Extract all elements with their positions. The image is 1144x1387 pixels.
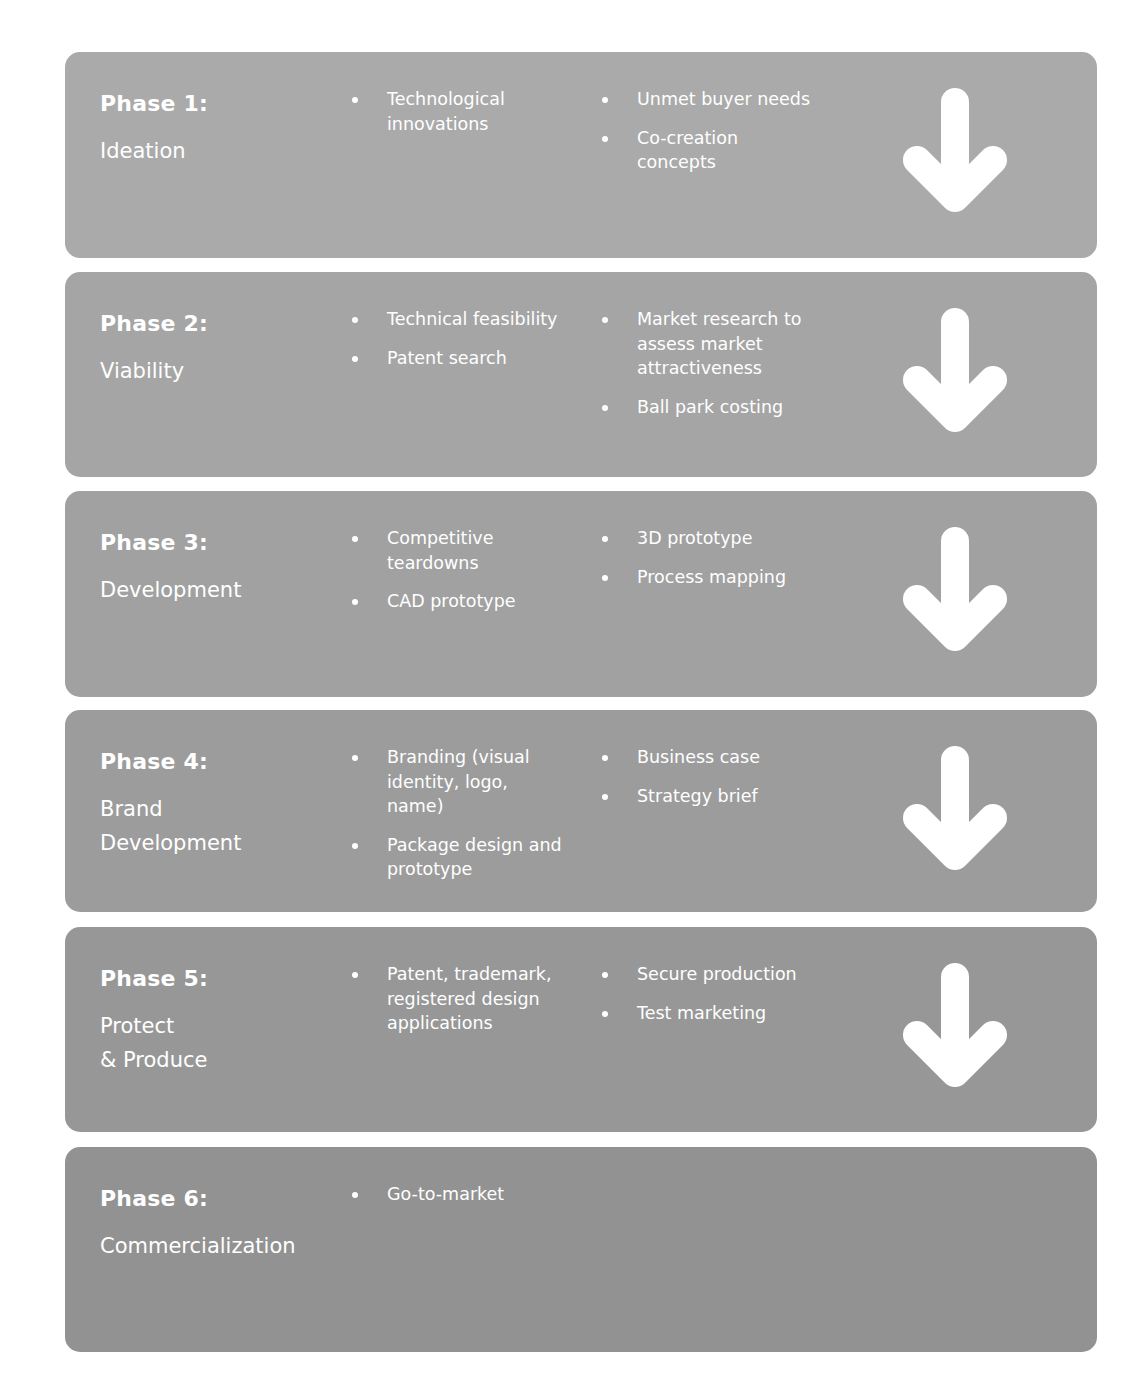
activity-item: 3D prototype: [600, 526, 817, 551]
activity-label: Test marketing: [637, 1003, 766, 1023]
activity-item: Competitive teardowns: [350, 526, 567, 575]
arrow-down-icon: [901, 525, 1009, 655]
activity-item: Technical feasibility: [350, 307, 567, 332]
activity-label: Co-creation concepts: [637, 128, 738, 173]
activity-label: Branding (visual identity, logo, name): [387, 747, 530, 816]
activity-item: Test marketing: [600, 1001, 817, 1026]
activity-label: Secure production: [637, 964, 797, 984]
bullet-icon: [352, 972, 358, 978]
phase-box-1: Phase 1: Ideation Technological innovati…: [65, 52, 1097, 258]
activity-item: Package design and prototype: [350, 833, 567, 882]
activity-label: Business case: [637, 747, 760, 767]
phase-activities-column-2: Unmet buyer needsCo-creation concepts: [600, 87, 850, 189]
bullet-icon: [602, 575, 608, 581]
activity-label: Technological innovations: [387, 89, 505, 134]
phase-activities-column-1: Competitive teardownsCAD prototype: [350, 526, 600, 628]
bullet-icon: [602, 972, 608, 978]
activity-label: Market research to assess market attract…: [637, 309, 802, 378]
phase-title: Phase 3:: [100, 529, 208, 557]
activity-item: Ball park costing: [600, 395, 817, 420]
bullet-icon: [352, 536, 358, 542]
phase-box-5: Phase 5: Protect & Produce Patent, trade…: [65, 927, 1097, 1132]
activity-label: Unmet buyer needs: [637, 89, 810, 109]
bullet-icon: [352, 317, 358, 323]
activity-item: CAD prototype: [350, 589, 567, 614]
phase-activities-column-1: Technological innovations: [350, 87, 600, 150]
phase-title: Phase 4:: [100, 748, 208, 776]
phase-box-4: Phase 4: Brand Development Branding (vis…: [65, 710, 1097, 912]
bullet-icon: [602, 97, 608, 103]
phase-box-3: Phase 3: Development Competitive teardow…: [65, 491, 1097, 697]
bullet-icon: [352, 97, 358, 103]
arrow-down-icon: [901, 961, 1009, 1091]
phase-activities-column-2: Secure productionTest marketing: [600, 962, 850, 1039]
arrow-down-icon: [901, 306, 1009, 436]
activity-item: Market research to assess market attract…: [600, 307, 817, 381]
phase-activities-column-1: Go-to-market: [350, 1182, 600, 1221]
phase-subtitle: Protect & Produce: [100, 1009, 340, 1077]
bullet-icon: [602, 405, 608, 411]
bullet-icon: [352, 599, 358, 605]
phase-box-2: Phase 2: Viability Technical feasibility…: [65, 272, 1097, 477]
activity-label: Technical feasibility: [387, 309, 557, 329]
arrow-down-icon: [901, 744, 1009, 874]
activity-label: Package design and prototype: [387, 835, 562, 880]
activity-label: Patent search: [387, 348, 507, 368]
phase-activities-column-1: Branding (visual identity, logo, name)Pa…: [350, 745, 600, 896]
phase-activities-column-2: Market research to assess market attract…: [600, 307, 850, 433]
phase-title: Phase 2:: [100, 310, 208, 338]
activity-label: Competitive teardowns: [387, 528, 493, 573]
activity-label: Patent, trademark, registered design app…: [387, 964, 552, 1033]
activity-item: Strategy brief: [600, 784, 817, 809]
phase-subtitle: Ideation: [100, 134, 340, 168]
activity-item: Process mapping: [600, 565, 817, 590]
phase-subtitle: Development: [100, 573, 340, 607]
activity-label: Ball park costing: [637, 397, 783, 417]
phase-title: Phase 5:: [100, 965, 208, 993]
phase-box-6: Phase 6: Commercialization Go-to-market: [65, 1147, 1097, 1352]
activity-label: Strategy brief: [637, 786, 758, 806]
bullet-icon: [352, 755, 358, 761]
phase-activities-column-1: Technical feasibilityPatent search: [350, 307, 600, 384]
bullet-icon: [602, 536, 608, 542]
activity-item: Business case: [600, 745, 817, 770]
bullet-icon: [352, 356, 358, 362]
bullet-icon: [602, 136, 608, 142]
bullet-icon: [602, 755, 608, 761]
bullet-icon: [602, 794, 608, 800]
activity-item: Co-creation concepts: [600, 126, 817, 175]
activity-item: Go-to-market: [350, 1182, 567, 1207]
bullet-icon: [602, 317, 608, 323]
bullet-icon: [352, 843, 358, 849]
phase-subtitle: Brand Development: [100, 792, 340, 860]
activity-label: CAD prototype: [387, 591, 516, 611]
phase-subtitle: Commercialization: [100, 1229, 340, 1263]
activity-item: Patent search: [350, 346, 567, 371]
activity-label: 3D prototype: [637, 528, 752, 548]
phase-title: Phase 1:: [100, 90, 208, 118]
activity-item: Technological innovations: [350, 87, 567, 136]
activity-item: Branding (visual identity, logo, name): [350, 745, 567, 819]
phase-activities-column-1: Patent, trademark, registered design app…: [350, 962, 600, 1050]
activity-item: Unmet buyer needs: [600, 87, 817, 112]
activity-item: Secure production: [600, 962, 817, 987]
phase-title: Phase 6:: [100, 1185, 208, 1213]
bullet-icon: [352, 1192, 358, 1198]
arrow-down-icon: [901, 86, 1009, 216]
bullet-icon: [602, 1011, 608, 1017]
activity-label: Go-to-market: [387, 1184, 504, 1204]
phase-activities-column-2: 3D prototypeProcess mapping: [600, 526, 850, 603]
activity-item: Patent, trademark, registered design app…: [350, 962, 567, 1036]
phase-subtitle: Viability: [100, 354, 340, 388]
activity-label: Process mapping: [637, 567, 786, 587]
phase-activities-column-2: Business caseStrategy brief: [600, 745, 850, 822]
